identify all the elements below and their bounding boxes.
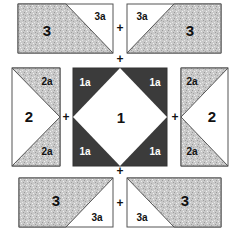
piece-top-right: 3 3a <box>127 4 221 53</box>
join-plus-top-to-middle: + <box>116 52 123 66</box>
join-plus-bottom-row: + <box>116 196 123 210</box>
join-plus-middle-to-bottom: + <box>116 164 123 178</box>
label-2: 2 <box>208 108 216 125</box>
label-3: 3 <box>52 192 60 209</box>
label-1a-bl: 1a <box>79 146 91 157</box>
label-2a-bottom: 2a <box>41 146 53 157</box>
label-3: 3 <box>186 22 194 39</box>
label-2a-top: 2a <box>41 76 53 87</box>
quilt-block-assembly-diagram: 3 3a + 3 3a + 2 2a 2a + 1 1a 1a 1a 1a + … <box>0 0 229 235</box>
label-3a: 3a <box>136 212 148 223</box>
join-plus-middle-left: + <box>62 110 69 124</box>
label-1a-tl: 1a <box>79 77 91 88</box>
piece-top-left: 3 3a <box>18 4 113 53</box>
label-1a-br: 1a <box>149 146 161 157</box>
label-3: 3 <box>43 22 51 39</box>
label-2: 2 <box>25 108 33 125</box>
label-2a-top: 2a <box>186 76 198 87</box>
join-plus-middle-right: + <box>171 110 178 124</box>
piece-center: 1 1a 1a 1a 1a <box>73 68 167 166</box>
label-1: 1 <box>117 109 125 126</box>
piece-bottom-right: 3 3a <box>127 178 221 227</box>
label-3: 3 <box>181 192 189 209</box>
piece-bottom-left: 3 3a <box>19 178 113 227</box>
label-2a-bottom: 2a <box>186 146 198 157</box>
label-3a: 3a <box>91 212 103 223</box>
label-3a: 3a <box>94 11 106 22</box>
piece-middle-left: 2 2a 2a <box>12 68 60 166</box>
label-1a-tr: 1a <box>149 77 161 88</box>
label-3a: 3a <box>136 11 148 22</box>
piece-middle-right: 2 2a 2a <box>181 68 228 166</box>
join-plus-top-row: + <box>116 21 123 35</box>
